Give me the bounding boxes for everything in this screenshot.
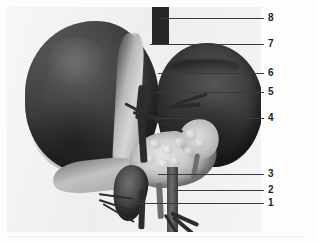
leader-line-8: [160, 18, 264, 19]
label-number-5: 5: [268, 87, 274, 97]
pancreatic-lobule: [195, 139, 205, 148]
pancreatic-lobule: [185, 129, 197, 140]
leader-line-6: [158, 73, 264, 74]
specimen-graphics: [7, 7, 261, 232]
label-number-8: 8: [268, 13, 274, 23]
specimen-photograph: [7, 7, 261, 232]
page-hairline: [10, 236, 306, 237]
label-number-2: 2: [268, 185, 274, 195]
label-number-3: 3: [268, 169, 274, 179]
background-slot-band: [152, 7, 169, 44]
pancreatic-lobule: [174, 137, 187, 148]
label-number-7: 7: [268, 39, 274, 49]
left-lobe-highlight: [47, 37, 107, 89]
pancreatic-lobule: [170, 157, 180, 166]
leader-line-3: [158, 174, 264, 175]
label-number-1: 1: [268, 198, 274, 208]
figure-root: 8 7 6 5 4 3 2 1: [0, 0, 318, 244]
duct-branch: [156, 183, 164, 219]
pancreatic-lobule: [183, 147, 194, 157]
leader-line-2: [174, 190, 264, 191]
pancreatic-lobule: [162, 145, 173, 155]
label-number-6: 6: [268, 68, 274, 78]
pancreatic-lobule: [149, 139, 161, 149]
leader-line-5: [155, 92, 264, 93]
leader-line-4: [155, 118, 264, 119]
label-number-4: 4: [268, 113, 274, 123]
leader-line-1: [130, 203, 264, 204]
vessel-branch-inferior: [138, 189, 145, 229]
leader-line-7: [150, 44, 264, 45]
